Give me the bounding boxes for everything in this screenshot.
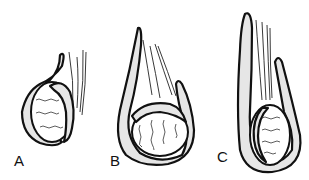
panel-b: B (110, 28, 194, 169)
fiber-line (270, 28, 272, 98)
panel-c: C (217, 13, 300, 172)
panel-label-b: B (110, 152, 120, 169)
fiber-line (77, 57, 78, 108)
fiber-line (158, 46, 176, 96)
panel-label-c: C (217, 148, 228, 165)
fiber-line (267, 25, 270, 100)
panel-a: A (14, 50, 86, 169)
panel-label-a: A (14, 152, 24, 169)
fiber-line (262, 22, 266, 100)
fiber-line (155, 44, 172, 95)
diagram-canvas: A B C (0, 0, 309, 180)
fiber-line (80, 50, 83, 112)
fiber-line (256, 20, 262, 100)
